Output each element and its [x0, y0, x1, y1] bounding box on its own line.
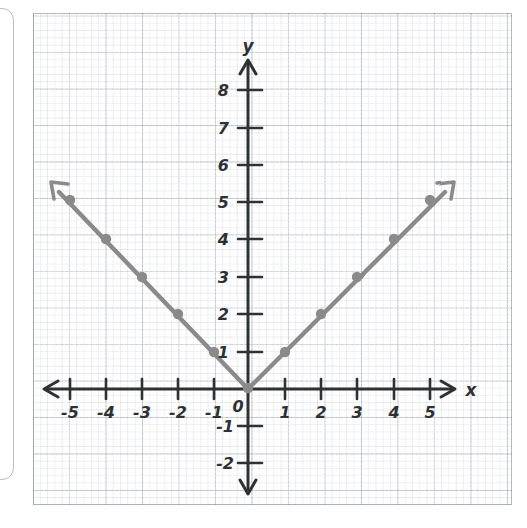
y-tick-label-8: 8 — [218, 81, 229, 100]
data-point-5-5 — [425, 195, 435, 205]
data-point--4-4 — [101, 234, 111, 244]
x-tick-label-3: 3 — [351, 403, 362, 422]
x-axis-label: x — [465, 380, 478, 400]
y-tick-label-6: 6 — [218, 156, 229, 175]
data-point--2-2 — [173, 309, 183, 319]
function-curve-group — [51, 182, 454, 389]
data-point--5-5 — [65, 195, 75, 205]
y-tick-label-1: 1 — [218, 343, 229, 362]
x-tick-label-4: 4 — [387, 403, 399, 422]
y-tick-label-2: 2 — [218, 305, 229, 324]
data-point-0-0 — [243, 383, 253, 393]
y-tick-label--1: -1 — [216, 417, 234, 436]
x-tick-label--4: -4 — [97, 403, 115, 422]
data-point--3-3 — [137, 272, 147, 282]
data-point-3-3 — [352, 272, 362, 282]
x-tick-label-1: 1 — [279, 403, 290, 422]
y-tick-label-3: 3 — [218, 268, 229, 287]
origin-label: 0 — [232, 397, 243, 416]
x-tick-label--3: -3 — [133, 403, 151, 422]
y-tick-label--2: -2 — [216, 454, 234, 473]
x-tick-label--2: -2 — [169, 403, 187, 422]
y-axis-label: y — [242, 36, 254, 56]
data-point-4-4 — [389, 234, 399, 244]
data-point-1-1 — [280, 347, 290, 357]
y-tick-label-5: 5 — [218, 193, 229, 212]
data-point-2-2 — [316, 309, 326, 319]
x-tick-label-5: 5 — [424, 403, 435, 422]
data-points-group — [65, 195, 435, 393]
x-tick-label-2: 2 — [315, 403, 326, 422]
y-tick-label-4: 4 — [217, 230, 229, 249]
abs-value-line — [59, 192, 445, 389]
x-tick-label--5: -5 — [61, 403, 79, 422]
figure-root: y x -5 -4 -3 -2 -1 1 2 3 4 5 8 7 6 5 4 3… — [0, 0, 527, 528]
y-tick-label-7: 7 — [218, 119, 230, 138]
coordinate-plane-plot: y x -5 -4 -3 -2 -1 1 2 3 4 5 8 7 6 5 4 3… — [0, 0, 527, 528]
